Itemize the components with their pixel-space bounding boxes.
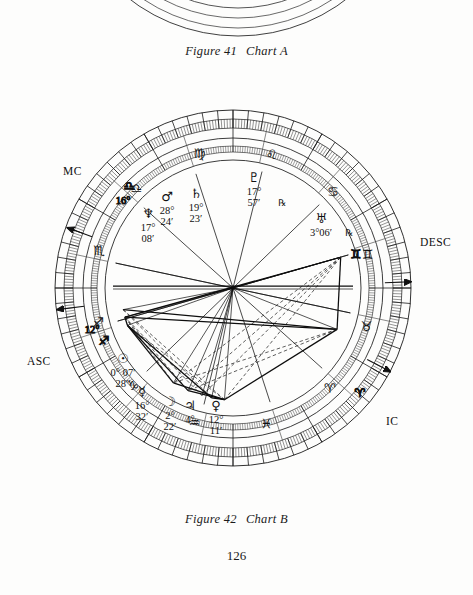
- sign-glyph-leo: ♌: [265, 147, 277, 162]
- planet-saturn: ♄19°23′: [189, 186, 204, 224]
- sign-glyph-pisces: ♓: [261, 416, 273, 431]
- angle-label-ic: IC: [386, 415, 398, 427]
- planet-glyph-saturn: ♄: [190, 186, 202, 201]
- figure-41-caption: Figure 41Chart A: [0, 44, 473, 59]
- figure-42-caption: Figure 42Chart B: [0, 512, 473, 527]
- planet-glyph-pluto: ♇: [248, 170, 260, 185]
- planet-minute-neptune: 08′: [142, 233, 155, 244]
- planet-minute-moon: 22′: [164, 421, 177, 432]
- sign-glyph-gemini: ♊: [362, 247, 374, 262]
- chart-a-label: Chart A: [246, 44, 288, 58]
- planet-minute-venus: 11′: [210, 425, 222, 436]
- angle-degree-asc: 12°: [85, 324, 100, 335]
- angle-arrow-asc: [57, 306, 84, 309]
- planet-glyph-venus: ♀: [211, 398, 221, 413]
- planet-glyph-neptune: ♆: [142, 206, 154, 221]
- planet-moon: ☽2°22′: [164, 394, 177, 432]
- angle-sign-glyph-ic: ♈: [355, 386, 366, 400]
- sign-glyph-virgo: ♍: [194, 146, 206, 161]
- retrograde-icon-pluto: ℞: [278, 198, 286, 208]
- sign-glyph-taurus: ♉: [361, 319, 373, 334]
- sign-glyph-aries: ♈: [324, 381, 336, 396]
- planet-degree-jupiter: 4°: [185, 414, 194, 425]
- angle-arrow-desc: [385, 282, 411, 283]
- planet-degree-saturn: 19°: [189, 202, 204, 213]
- planet-venus: ♀12°11′: [209, 398, 224, 436]
- planet-minute-saturn: 23′: [190, 213, 203, 224]
- angle-sign-glyph-mc: ♎: [124, 179, 135, 193]
- planet-degree-neptune: 17°: [141, 222, 156, 233]
- planet-degree-pluto: 17°: [247, 186, 262, 197]
- planet-neptune: ♆17°08′: [141, 206, 156, 244]
- sign-glyph-scorpio: ♏: [94, 243, 106, 258]
- planet-minute-sun: 28″: [116, 378, 131, 389]
- planet-glyph-jupiter: ♃: [184, 398, 196, 413]
- book-page: Figure 41Chart A ♍♌♋♊♉♈♓♒♑♐♏♎ ♄19°23′♂28…: [0, 0, 473, 595]
- planet-glyph-mars: ♂: [161, 189, 173, 204]
- retrograde-icon-uranus: ℞: [345, 228, 353, 238]
- planet-mars: ♂28°24′: [160, 189, 175, 227]
- angle-label-mc: MC: [63, 165, 82, 177]
- planet-glyph-sun: ☉: [117, 351, 129, 366]
- planet-degree-sun: 0° 07′: [111, 367, 136, 378]
- planet-glyph-uranus: ♅: [315, 211, 327, 226]
- planet-glyph-mercury: ☿: [138, 384, 146, 399]
- planet-uranus: ♅3°06′℞: [310, 211, 353, 238]
- planet-degree-moon: 2°: [165, 410, 174, 421]
- planet-minute-mars: 24′: [161, 216, 174, 227]
- angle-sign-glyph-desc: ♊: [351, 247, 362, 261]
- chart-b-wheel: ♍♌♋♊♉♈♓♒♑♐♏♎ ♄19°23′♂28°24′♆17°08′♇17°57…: [0, 100, 473, 480]
- planet-degree-mars: 28°: [160, 205, 175, 216]
- planet-pluto: ♇17°57′℞: [247, 170, 286, 208]
- page-number: 126: [0, 548, 473, 564]
- planet-jupiter: ♃4°: [184, 398, 196, 425]
- planet-degree-venus: 12°: [209, 414, 224, 425]
- angle-label-desc: DESC: [420, 236, 451, 248]
- chart-b-label: Chart B: [246, 512, 288, 526]
- angle-sign-glyph-asc: ♐: [99, 334, 110, 348]
- planet-glyph-moon: ☽: [164, 394, 176, 409]
- planet-minute-pluto: 57′: [248, 197, 261, 208]
- angle-label-asc: ASC: [27, 355, 51, 367]
- angle-degree-mc: 16°: [116, 195, 131, 206]
- figure-42-label: Figure 42: [185, 512, 237, 526]
- chart-a-partial-wheel: [0, 0, 473, 40]
- figure-41-label: Figure 41: [185, 44, 237, 58]
- planet-minute-mercury: 32′: [136, 411, 149, 422]
- planet-degree-uranus: 3°06′: [310, 227, 332, 238]
- planet-degree-mercury: 16°: [135, 400, 150, 411]
- sign-glyph-cancer: ♋: [327, 184, 339, 199]
